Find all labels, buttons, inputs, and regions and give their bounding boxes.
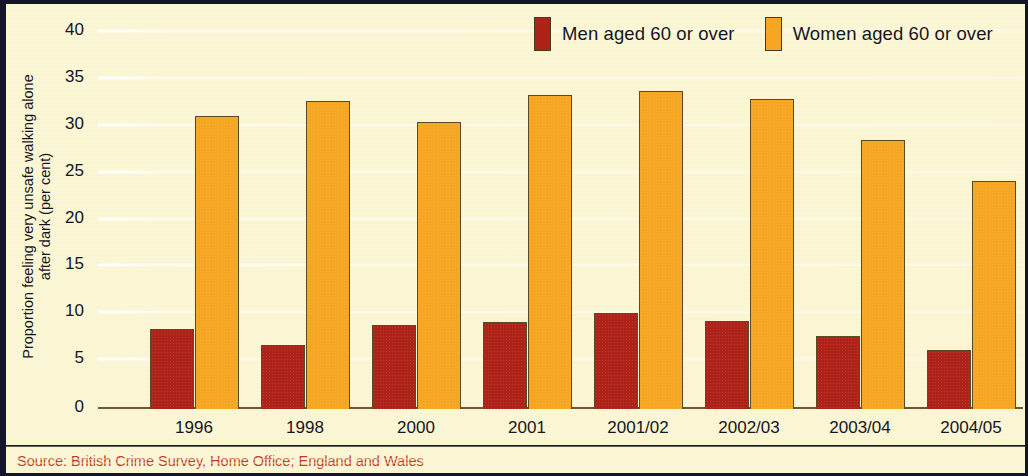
bar-women-2004-05: [972, 181, 1016, 409]
x-axis-tick-label: 2001/02: [593, 418, 683, 438]
bar-men-1996: [150, 329, 194, 409]
chart-legend: Men aged 60 or over Women aged 60 or ove…: [534, 17, 993, 51]
x-axis-tick-label: 2004/05: [926, 418, 1016, 438]
bar-men-2003-04: [816, 336, 860, 409]
x-axis-tick-label: 2003/04: [815, 418, 905, 438]
bar-men-2001-02: [594, 313, 638, 409]
legend-label-women: Women aged 60 or over: [793, 23, 993, 45]
bar-men-2001: [483, 322, 527, 409]
chart-panel: Men aged 60 or over Women aged 60 or ove…: [6, 4, 1025, 473]
chart-figure: Men aged 60 or over Women aged 60 or ove…: [0, 0, 1028, 476]
x-axis-tick-label: 2000: [371, 418, 461, 438]
y-axis-title: Proportion feeling very unsafe walking a…: [20, 9, 66, 424]
bar-women-2003-04: [861, 140, 905, 409]
bar-men-2002-03: [705, 321, 749, 409]
bar-women-1996: [195, 116, 239, 409]
bar-women-2002-03: [750, 99, 794, 409]
bar-women-2001-02: [639, 91, 683, 409]
y-axis-tick-label: 5: [75, 348, 84, 368]
y-axis-tick-label: 20: [65, 207, 84, 227]
bar-women-2000: [417, 122, 461, 409]
x-axis-tick-label: 1996: [149, 418, 239, 438]
source-divider: [6, 445, 1025, 447]
bar-men-2000: [372, 325, 416, 409]
bar-men-2004-05: [927, 350, 971, 409]
y-axis-tick-label: 0: [75, 397, 84, 417]
legend-label-men: Men aged 60 or over: [562, 23, 735, 45]
bar-men-1998: [261, 345, 305, 409]
plot-area: 051015202530354019961998200020012001/022…: [98, 34, 1023, 409]
y-axis-tick-label: 35: [65, 66, 84, 86]
y-axis-title-line2: after dark (per cent): [37, 9, 54, 424]
x-axis-tick-label: 2002/03: [704, 418, 794, 438]
y-axis-tick-label: 15: [65, 254, 84, 274]
women-swatch-icon: [765, 17, 782, 51]
source-note: Source: British Crime Survey, Home Offic…: [17, 453, 424, 469]
men-swatch-icon: [534, 17, 551, 51]
legend-entry-women: Women aged 60 or over: [765, 17, 993, 51]
x-axis-tick-label: 1998: [260, 418, 350, 438]
y-axis-tick-label: 40: [65, 20, 84, 40]
gridline: 35: [98, 76, 1023, 79]
x-axis-tick-label: 2001: [482, 418, 572, 438]
bar-women-2001: [528, 95, 572, 409]
bar-women-1998: [306, 101, 350, 409]
y-axis-title-line1: Proportion feeling very unsafe walking a…: [20, 9, 37, 424]
legend-entry-men: Men aged 60 or over: [534, 17, 735, 51]
y-axis-tick-label: 25: [65, 160, 84, 180]
y-axis-tick-label: 10: [65, 301, 84, 321]
y-axis-tick-label: 30: [65, 113, 84, 133]
